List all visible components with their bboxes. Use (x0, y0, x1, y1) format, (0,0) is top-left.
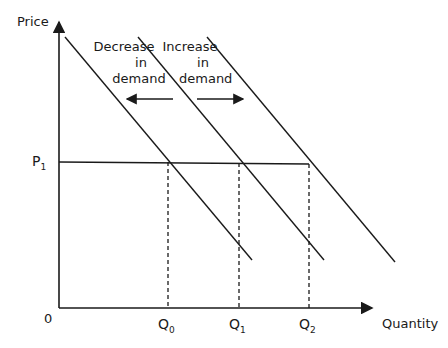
demand-curve-d2 (207, 37, 395, 262)
q0-label: Q0 (158, 316, 175, 338)
x-axis-label: Quantity (382, 316, 438, 332)
q0-sub: 0 (169, 325, 175, 335)
p1-label: P1 (32, 153, 46, 175)
q2-main: Q (299, 316, 310, 332)
y-axis-label: Price (17, 14, 49, 30)
q1-main: Q (229, 316, 240, 332)
q0-main: Q (158, 316, 169, 332)
increase-line2: in (155, 55, 225, 71)
increase-line1: Increase (155, 39, 225, 55)
p1-sub: 1 (40, 162, 46, 172)
q1-label: Q1 (229, 316, 246, 338)
q1-sub: 1 (240, 325, 246, 335)
increase-line3: demand (155, 71, 225, 87)
price-line-p1 (59, 162, 309, 164)
increase-annotation: Increase in demand (155, 39, 225, 87)
q2-label: Q2 (299, 316, 316, 338)
q2-sub: 2 (310, 325, 316, 335)
origin-label: 0 (44, 311, 52, 327)
